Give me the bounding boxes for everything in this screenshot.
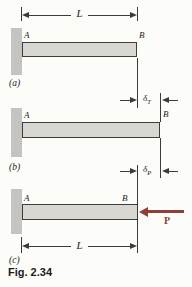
dimension-arrowhead-right-icon bbox=[130, 12, 137, 18]
load-arrow-shaft bbox=[147, 210, 184, 213]
dimension-line bbox=[27, 15, 71, 16]
delta-t-label: δT bbox=[143, 93, 151, 107]
section-c-label: (c) bbox=[9, 255, 20, 265]
dimension-line bbox=[88, 15, 131, 16]
dimension-line bbox=[168, 171, 178, 172]
dimension-arrowhead-right-icon bbox=[130, 243, 137, 249]
figure-2-34: L A B (a) δT A B (b) δP bbox=[0, 0, 192, 287]
bar-a bbox=[22, 42, 137, 57]
bar-b-elongated bbox=[22, 122, 160, 138]
point-a-label: A bbox=[24, 30, 30, 40]
delta-t-subscript: T bbox=[147, 98, 151, 105]
dimension-line bbox=[27, 246, 71, 247]
bar-c-compressed bbox=[22, 204, 138, 220]
length-label: L bbox=[71, 240, 88, 251]
extension-line-b-expanded bbox=[160, 93, 161, 122]
section-a-label: (a) bbox=[9, 78, 20, 88]
point-b-label: B bbox=[122, 193, 128, 203]
dimension-line bbox=[168, 100, 178, 101]
point-b-label: B bbox=[163, 109, 169, 119]
fixed-support-c bbox=[11, 189, 22, 234]
point-b-label: B bbox=[139, 30, 145, 40]
fixed-support-b bbox=[11, 108, 22, 157]
extension-line-b-original bbox=[137, 58, 138, 108]
dimension-line bbox=[88, 246, 131, 247]
extension-line-b-expanded bbox=[160, 138, 161, 178]
delta-p-label: δP bbox=[143, 164, 151, 178]
section-b-label: (b) bbox=[9, 162, 20, 172]
dimension-extension-line bbox=[137, 7, 138, 21]
dimension-arrowhead-right-icon bbox=[130, 97, 137, 103]
fixed-support-a bbox=[11, 28, 22, 75]
point-a-label: A bbox=[24, 110, 30, 120]
point-a-label: A bbox=[24, 193, 30, 203]
dimension-arrowhead-right-icon bbox=[130, 168, 137, 174]
length-label: L bbox=[71, 8, 88, 19]
figure-caption: Fig. 2.34 bbox=[8, 266, 52, 278]
extension-line-b-restored bbox=[137, 220, 138, 253]
delta-p-subscript: P bbox=[147, 169, 151, 176]
extension-line-b-restored bbox=[137, 165, 138, 205]
load-p-label: P bbox=[164, 215, 170, 226]
